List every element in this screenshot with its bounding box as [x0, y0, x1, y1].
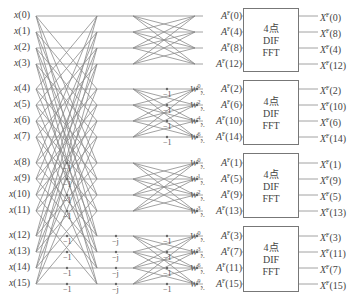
minus-j-label: −j — [112, 254, 119, 262]
output-label: XF(3) — [320, 230, 341, 243]
input-label: x(8) — [0, 157, 30, 167]
intermediate-label: AF(12) — [203, 56, 242, 69]
input-label: x(5) — [0, 99, 30, 109]
intermediate-label: AF(11) — [203, 260, 242, 273]
minus-one-label: −1 — [163, 270, 172, 278]
output-label: XF(15) — [320, 278, 346, 291]
four-point-dif-fft-block: 4点DIFFFT — [243, 226, 299, 292]
minus-one-label: −1 — [163, 91, 172, 99]
intermediate-label: AF(15) — [203, 276, 242, 289]
input-label: x(11) — [0, 205, 30, 215]
minus-one-label: −1 — [163, 238, 172, 246]
output-label: XF(6) — [320, 115, 341, 128]
minus-one-label: −1 — [63, 286, 72, 294]
output-label: XF(4) — [320, 42, 341, 55]
minus-one-label: −1 — [63, 238, 72, 246]
signal-flow-wires — [0, 0, 363, 299]
block-caption: 4点DIFFFT — [244, 169, 298, 205]
input-label: x(0) — [0, 10, 30, 20]
minus-one-label: −1 — [163, 254, 172, 262]
input-label: x(10) — [0, 189, 30, 199]
output-label: XF(2) — [320, 83, 341, 96]
minus-one-label: −1 — [63, 270, 72, 278]
intermediate-label: AF(6) — [203, 97, 242, 110]
output-label: XF(14) — [320, 131, 346, 144]
input-label: x(12) — [0, 230, 30, 240]
minus-one-label: −1 — [63, 197, 72, 205]
input-label: x(3) — [0, 58, 30, 68]
minus-j-label: −j — [112, 238, 119, 246]
intermediate-label: AF(7) — [203, 244, 242, 257]
output-label: XF(0) — [320, 10, 341, 23]
output-label: XF(11) — [320, 246, 346, 259]
input-label: x(9) — [0, 173, 30, 183]
intermediate-label: AF(0) — [203, 8, 242, 21]
minus-j-label: −j — [112, 270, 119, 278]
minus-one-label: −1 — [63, 181, 72, 189]
input-label: x(1) — [0, 26, 30, 36]
minus-one-label: −1 — [63, 254, 72, 262]
four-point-dif-fft-block: 4点DIFFFT — [243, 8, 299, 72]
block-caption: 4点DIFFFT — [244, 23, 298, 59]
output-label: XF(1) — [320, 157, 341, 170]
output-label: XF(5) — [320, 189, 341, 202]
intermediate-label: AF(8) — [203, 40, 242, 53]
input-label: x(2) — [0, 42, 30, 52]
fft-flow-diagram: x(0)x(1)x(2)x(3)x(4)x(5)x(6)x(7)x(8)x(9)… — [0, 0, 363, 299]
intermediate-label: AF(5) — [203, 171, 242, 184]
block-caption: 4点DIFFFT — [244, 242, 298, 278]
output-label: XF(9) — [320, 173, 341, 186]
minus-one-label: −1 — [163, 139, 172, 147]
output-label: XF(13) — [320, 205, 346, 218]
intermediate-label: AF(4) — [203, 24, 242, 37]
four-point-dif-fft-block: 4点DIFFFT — [243, 80, 299, 145]
four-point-dif-fft-block: 4点DIFFFT — [243, 153, 299, 218]
minus-j-label: −j — [112, 286, 119, 294]
intermediate-label: AF(13) — [203, 203, 242, 216]
output-label: XF(7) — [320, 262, 341, 275]
minus-one-label: −1 — [163, 286, 172, 294]
input-label: x(13) — [0, 246, 30, 256]
block-caption: 4点DIFFFT — [244, 96, 298, 132]
output-label: XF(12) — [320, 58, 346, 71]
output-label: XF(8) — [320, 26, 341, 39]
intermediate-label: AF(14) — [203, 129, 242, 142]
input-label: x(15) — [0, 278, 30, 288]
minus-one-label: −1 — [163, 123, 172, 131]
intermediate-label: AF(9) — [203, 187, 242, 200]
minus-one-label: −1 — [63, 213, 72, 221]
intermediate-label: AF(10) — [203, 113, 242, 126]
input-label: x(7) — [0, 131, 30, 141]
intermediate-label: AF(1) — [203, 155, 242, 168]
intermediate-label: AF(3) — [203, 228, 242, 241]
output-label: XF(10) — [320, 99, 346, 112]
minus-one-label: −1 — [163, 107, 172, 115]
input-label: x(14) — [0, 262, 30, 272]
input-label: x(6) — [0, 115, 30, 125]
intermediate-label: AF(2) — [203, 81, 242, 94]
input-label: x(4) — [0, 83, 30, 93]
minus-one-label: −1 — [63, 165, 72, 173]
